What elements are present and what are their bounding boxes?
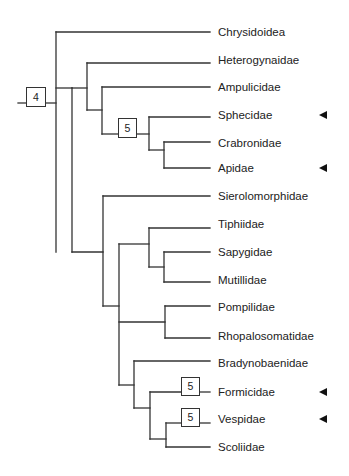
taxon-label: Vespidae <box>218 412 265 426</box>
taxon-label: Tiphiidae <box>218 217 264 231</box>
taxon-label: Crabronidae <box>218 136 281 150</box>
triangle-marker-icon <box>319 388 327 396</box>
taxon-label: Pompilidae <box>218 300 275 314</box>
node-count-box: 5 <box>181 408 200 427</box>
taxon-label: Ampulicidae <box>218 80 281 94</box>
taxon-label: Mutillidae <box>218 273 267 287</box>
taxon-label: Rhopalosomatidae <box>218 329 314 343</box>
triangle-marker-icon <box>319 164 327 172</box>
cladogram-branches <box>0 0 349 476</box>
taxon-label: Formicidae <box>218 385 275 399</box>
taxon-label: Apidae <box>218 161 254 175</box>
taxon-label: Bradynobaenidae <box>218 356 308 370</box>
taxon-label: Heterogynaidae <box>218 53 299 67</box>
taxon-label: Sphecidae <box>218 108 272 122</box>
taxon-label: Chrysidoidea <box>218 25 285 39</box>
node-count-box: 5 <box>181 377 200 396</box>
taxon-label: Scoliidae <box>218 440 265 454</box>
taxon-label: Sapygidae <box>218 245 272 259</box>
taxon-label: Sierolomorphidae <box>218 189 308 203</box>
triangle-marker-icon <box>319 415 327 423</box>
node-count-box: 5 <box>118 118 137 138</box>
triangle-marker-icon <box>319 111 327 119</box>
node-count-box: 4 <box>26 87 46 107</box>
